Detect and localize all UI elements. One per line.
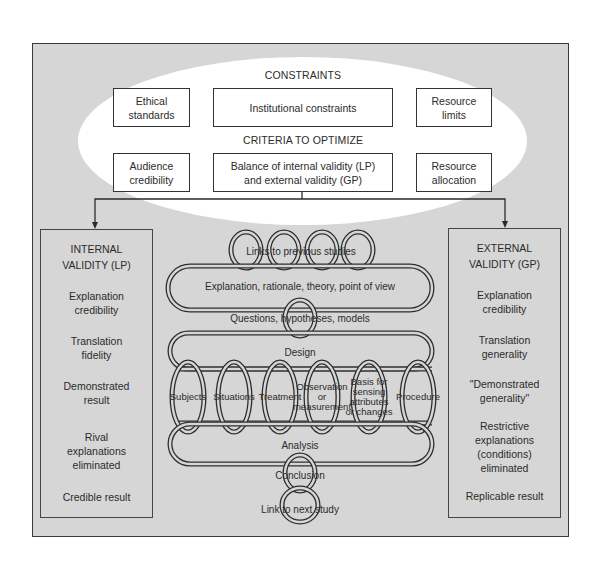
link-next-label: Link to next study <box>261 504 339 515</box>
conclusion-label: Conclusion <box>275 470 324 481</box>
explanation-label: Explanation, rationale, theory, point of… <box>205 281 396 292</box>
arrow-down-icon <box>92 222 98 229</box>
design-element-label: or changes <box>345 406 392 417</box>
design-element-label: Situations <box>213 391 255 402</box>
research-design-diagram: CONSTRAINTS Ethical standards Institutio… <box>0 0 600 568</box>
analysis-label: Analysis <box>281 440 318 451</box>
design-element-label: Subjects <box>170 391 207 402</box>
links-previous-label: Links to previous studies <box>246 246 356 257</box>
questions-label: Questions, hypotheses, models <box>230 313 370 324</box>
connector-lines <box>95 192 505 226</box>
design-element-label: Procedure <box>396 391 440 402</box>
design-label: Design <box>284 347 315 358</box>
connector-horizontal <box>95 199 505 226</box>
diagram-overlay: Links to previous studies Explanation, r… <box>0 0 600 568</box>
design-element-label: measurement <box>293 401 351 412</box>
arrow-down-icon <box>502 221 508 228</box>
